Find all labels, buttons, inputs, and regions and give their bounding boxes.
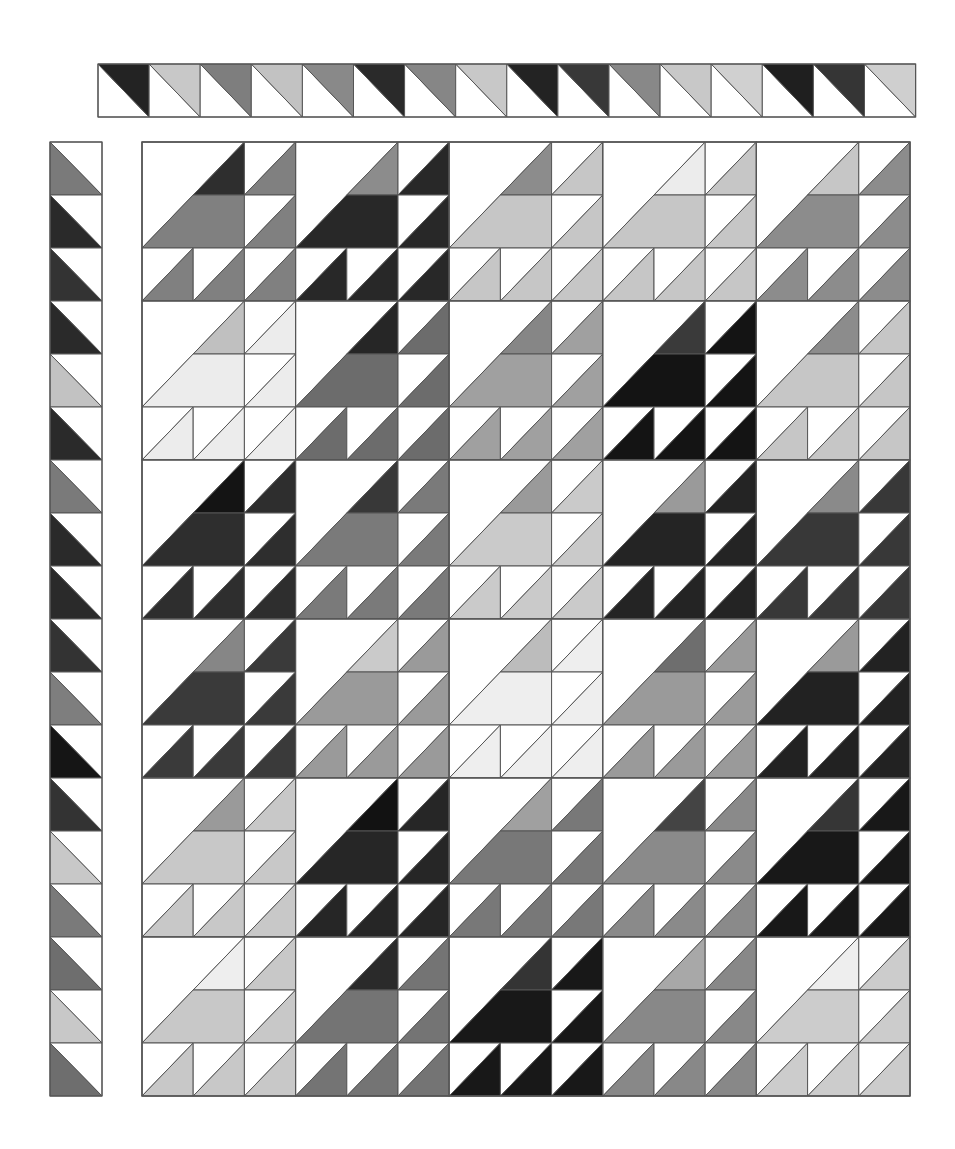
top-border-strip <box>98 64 916 117</box>
main-quilt-grid <box>142 142 910 1096</box>
left-border-strip <box>50 142 102 1096</box>
quilt-canvas <box>0 0 955 1149</box>
